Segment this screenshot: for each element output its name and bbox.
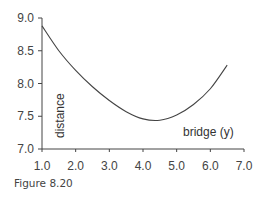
x-tick-label: 7.0 (236, 159, 253, 173)
line-chart: 7.07.58.08.59.01.02.03.04.05.06.07.0 dis… (0, 0, 267, 200)
x-tick-label: 6.0 (202, 159, 219, 173)
y-tick-label: 7.5 (17, 109, 34, 123)
y-tick-label: 8.5 (17, 44, 34, 58)
x-tick-label: 4.0 (135, 159, 152, 173)
x-tick-label: 1.0 (34, 159, 51, 173)
y-tick-label: 7.0 (17, 142, 34, 156)
data-line (42, 26, 227, 121)
x-tick-label: 3.0 (101, 159, 118, 173)
x-axis-title: bridge (y) (183, 125, 234, 139)
figure-caption: Figure 8.20 (14, 177, 73, 189)
y-tick-label: 9.0 (17, 11, 34, 25)
y-tick-label: 8.0 (17, 77, 34, 91)
y-axis-title: distance (53, 93, 67, 138)
x-tick-label: 5.0 (168, 159, 185, 173)
x-tick-label: 2.0 (67, 159, 84, 173)
